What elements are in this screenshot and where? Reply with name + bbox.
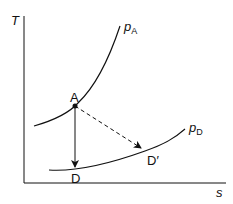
point-D-label: D	[71, 172, 80, 185]
ts-diagram: T s pA pD A D D′	[0, 0, 233, 204]
x-axis-label: s	[216, 186, 223, 199]
curve-pA-label-sub: A	[131, 26, 137, 36]
diagram-graphics	[0, 0, 233, 204]
curve-pA-label: pA	[124, 20, 137, 36]
curve-pD-label: pD	[189, 121, 203, 137]
y-axis-label: T	[11, 14, 19, 27]
curve-pD	[49, 129, 185, 170]
point-Dprime-label: D′	[147, 154, 159, 167]
point-A-label: A	[70, 91, 79, 104]
arrow-A-to-Dprime	[75, 106, 141, 148]
curve-pA	[34, 26, 120, 126]
curve-pD-label-sub: D	[196, 127, 203, 137]
